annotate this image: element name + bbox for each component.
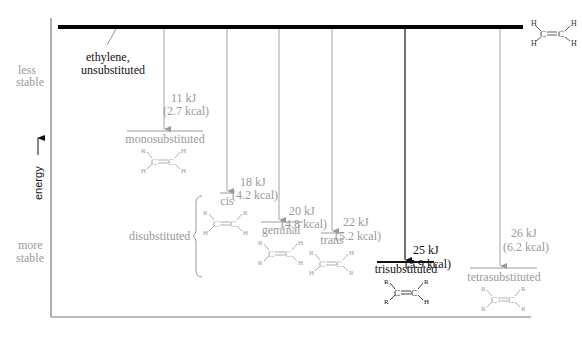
energy-kj-label: 11 kJ bbox=[171, 91, 197, 105]
energy-kj-label: 26 kJ bbox=[511, 226, 537, 240]
svg-text:C: C bbox=[394, 288, 400, 298]
svg-text:C: C bbox=[319, 259, 325, 269]
level-name: monosubstituted bbox=[125, 132, 204, 146]
energy-kcal-label: (4.2 kcal) bbox=[232, 188, 278, 202]
svg-text:R: R bbox=[243, 209, 248, 217]
svg-text:R: R bbox=[203, 209, 208, 217]
svg-text:R: R bbox=[309, 249, 314, 257]
more-stable-label-2: stable bbox=[16, 251, 44, 265]
less-stable-label-2: stable bbox=[16, 75, 44, 89]
svg-text:C: C bbox=[558, 29, 564, 39]
svg-text:H: H bbox=[309, 269, 314, 277]
ethylene-pointer bbox=[107, 29, 116, 45]
svg-text:H: H bbox=[349, 249, 354, 257]
alkene-structure: RRRHCC bbox=[384, 278, 429, 306]
disubstituted-label: disubstituted bbox=[129, 229, 190, 243]
svg-text:C: C bbox=[230, 219, 236, 229]
level-name: geminal bbox=[262, 223, 301, 237]
level-name: tetrasubstituted bbox=[467, 270, 540, 284]
alkene-structure: RHHRCC bbox=[309, 249, 354, 277]
energy-kj-label: 22 kJ bbox=[343, 215, 369, 229]
svg-text:H: H bbox=[141, 167, 146, 175]
alkene-structure: RRHHCC bbox=[258, 239, 303, 267]
svg-text:H: H bbox=[298, 239, 303, 247]
energy-kj-label: 20 kJ bbox=[289, 204, 315, 218]
svg-text:H: H bbox=[571, 39, 577, 48]
svg-text:C: C bbox=[285, 249, 291, 259]
svg-text:C: C bbox=[508, 295, 514, 305]
level-trans: 22 kJ(5.2 kcal)transRHHRCC bbox=[309, 29, 381, 277]
level-geminal: 20 kJ(4.8 kcal)geminalRRHHCC bbox=[258, 29, 327, 267]
svg-text:H: H bbox=[571, 19, 577, 28]
level-name: cis bbox=[220, 194, 234, 208]
level-tetrasubstituted: 26 kJ(6.2 kcal)tetrasubstitutedRRRRCC bbox=[467, 29, 549, 313]
svg-text:R: R bbox=[384, 278, 389, 286]
level-name: trans bbox=[320, 233, 344, 247]
energy-diagram: less stable more stable energy ethylene,… bbox=[0, 0, 582, 341]
svg-text:C: C bbox=[151, 157, 157, 167]
svg-text:H: H bbox=[531, 39, 537, 48]
svg-text:R: R bbox=[349, 269, 354, 277]
energy-kj-label: 25 kJ bbox=[413, 243, 439, 257]
level-cis: 18 kJ(4.2 kcal)cisRHRHCC bbox=[203, 29, 278, 237]
alkene-structure: RHRHCC bbox=[203, 209, 248, 237]
alkene-structure: RRRRCC bbox=[481, 285, 526, 313]
ethylene-label-2: unsubstituted bbox=[81, 63, 145, 77]
energy-axis-label: energy bbox=[32, 166, 44, 200]
svg-text:R: R bbox=[258, 239, 263, 247]
energy-kcal-label: (2.7 kcal) bbox=[163, 104, 209, 118]
level-trisubstituted: 25 kJ(5.9 kcal)trisubstitutedRRRHCC bbox=[375, 29, 451, 306]
svg-text:R: R bbox=[424, 278, 429, 286]
svg-text:C: C bbox=[411, 288, 417, 298]
svg-text:C: C bbox=[491, 295, 497, 305]
svg-text:R: R bbox=[141, 147, 146, 155]
alkene-structure: RHHHCC bbox=[141, 147, 186, 175]
svg-text:H: H bbox=[298, 259, 303, 267]
ethylene-label-1: ethylene, bbox=[86, 50, 130, 64]
svg-text:R: R bbox=[521, 305, 526, 313]
energy-kcal-label: (6.2 kcal) bbox=[503, 240, 549, 254]
svg-text:R: R bbox=[481, 305, 486, 313]
svg-text:C: C bbox=[336, 259, 342, 269]
svg-text:R: R bbox=[258, 259, 263, 267]
disubstituted-brace bbox=[193, 196, 202, 277]
level-monosubstituted: 11 kJ(2.7 kcal)monosubstitutedRHHHCC bbox=[125, 29, 209, 175]
svg-text:C: C bbox=[168, 157, 174, 167]
level-name: trisubstituted bbox=[375, 262, 438, 276]
svg-text:C: C bbox=[268, 249, 274, 259]
svg-text:R: R bbox=[384, 298, 389, 306]
more-stable-label-1: more bbox=[18, 238, 43, 252]
svg-text:C: C bbox=[213, 219, 219, 229]
energy-kj-label: 18 kJ bbox=[240, 175, 266, 189]
svg-text:H: H bbox=[243, 229, 248, 237]
svg-text:H: H bbox=[181, 147, 186, 155]
svg-text:H: H bbox=[181, 167, 186, 175]
ethylene-structure: H H C C H H bbox=[531, 19, 577, 48]
svg-text:R: R bbox=[521, 285, 526, 293]
svg-text:H: H bbox=[203, 229, 208, 237]
svg-text:R: R bbox=[481, 285, 486, 293]
svg-text:H: H bbox=[424, 298, 429, 306]
